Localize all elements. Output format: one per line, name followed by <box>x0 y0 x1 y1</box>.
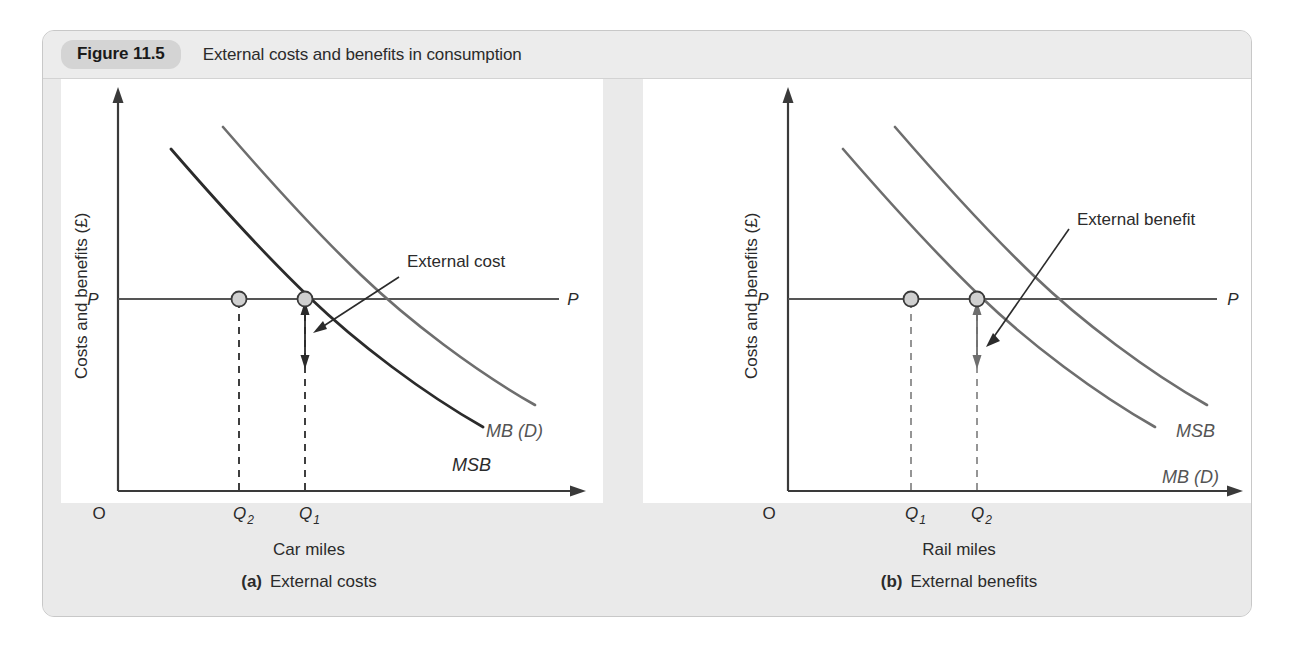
panel-b-annotation-label: External benefit <box>1077 210 1195 229</box>
panel-a-curve-label-msb: MSB <box>452 455 491 475</box>
panel-a-x-axis-label: Car miles <box>273 540 345 559</box>
panel-a-marker-q1 <box>298 292 313 307</box>
panel-b-q2-label: Q2 <box>971 504 992 527</box>
panel-a-annotation-label: External cost <box>407 252 506 271</box>
panel-b-price-label-left: P <box>757 290 769 309</box>
panel-a-price-label-right: P <box>567 290 579 309</box>
figure-card: Figure 11.5 External costs and benefits … <box>42 30 1252 617</box>
figure-number-badge: Figure 11.5 <box>61 40 181 69</box>
panel-a-chart: Costs and benefits (£) P P O Q2 Q1 MB (D… <box>43 79 603 617</box>
panel-b-curve-label-msb: MSB <box>1176 421 1215 441</box>
panel-b-external-benefits: Costs and benefits (£) P P O Q1 Q2 MSB M… <box>603 79 1252 617</box>
panel-b-marker-q2 <box>970 292 985 307</box>
panel-a-external-costs: Costs and benefits (£) P P O Q2 Q1 MB (D… <box>43 79 603 617</box>
figure-body: Costs and benefits (£) P P O Q2 Q1 MB (D… <box>43 79 1251 617</box>
panel-a-price-label-left: P <box>87 290 99 309</box>
panel-b-x-axis-label: Rail miles <box>922 540 996 559</box>
panel-b-marker-q1 <box>904 292 919 307</box>
panel-a-caption: (a)External costs <box>241 572 377 591</box>
panel-b-chart: Costs and benefits (£) P P O Q1 Q2 MSB M… <box>603 79 1252 617</box>
figure-title: External costs and benefits in consumpti… <box>203 45 522 65</box>
panel-a-curve-label-mb: MB (D) <box>486 421 543 441</box>
figure-page: Figure 11.5 External costs and benefits … <box>0 0 1293 656</box>
panel-b-origin-label: O <box>762 504 775 523</box>
panel-b-curve-label-mb: MB (D) <box>1162 467 1219 487</box>
panel-a-marker-q2 <box>232 292 247 307</box>
panel-a-origin-label: O <box>92 504 105 523</box>
panel-b-q1-label: Q1 <box>905 504 926 527</box>
panel-a-q2-label: Q2 <box>233 504 254 527</box>
panel-a-q1-label: Q1 <box>299 504 320 527</box>
figure-header: Figure 11.5 External costs and benefits … <box>43 31 1251 79</box>
panel-b-price-label-right: P <box>1227 290 1239 309</box>
panel-b-caption: (b)External benefits <box>881 572 1037 591</box>
panel-b-plot-background <box>643 79 1252 503</box>
